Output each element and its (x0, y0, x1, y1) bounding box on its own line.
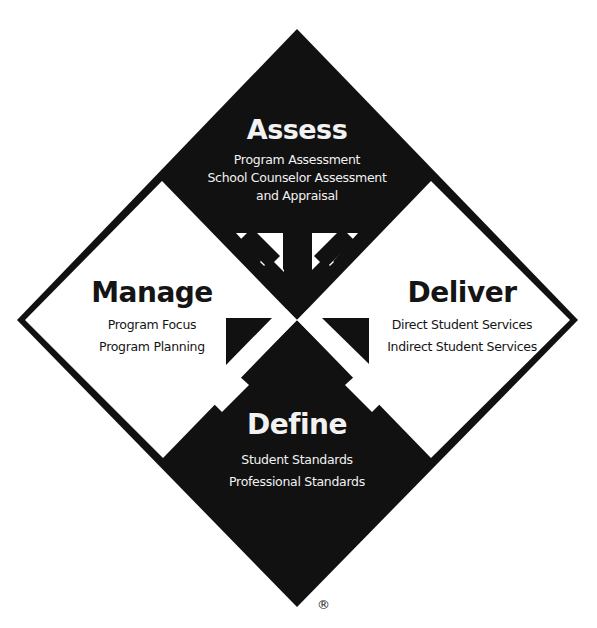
manage-item: Program Focus (72, 314, 232, 336)
assess-item: School Counselor Assessment (197, 169, 397, 187)
assess-item: and Appraisal (197, 187, 397, 204)
define-title: Define (197, 407, 397, 443)
manage-section: Manage Program Focus Program Planning (72, 276, 232, 358)
define-section: Define Student Standards Professional St… (197, 407, 397, 493)
manage-title: Manage (72, 276, 232, 310)
define-item: Professional Standards (197, 471, 397, 493)
manage-item: Program Planning (72, 336, 232, 358)
deliver-title: Deliver (362, 276, 562, 310)
registered-trademark-symbol: ® (317, 597, 330, 612)
define-item: Student Standards (197, 449, 397, 471)
deliver-item: Direct Student Services (362, 314, 562, 336)
deliver-item: Indirect Student Services (362, 336, 562, 358)
deliver-section: Deliver Direct Student Services Indirect… (362, 276, 562, 358)
assess-section: Assess Program Assessment School Counsel… (197, 113, 397, 204)
assess-title: Assess (197, 113, 397, 147)
assess-item: Program Assessment (197, 150, 397, 169)
